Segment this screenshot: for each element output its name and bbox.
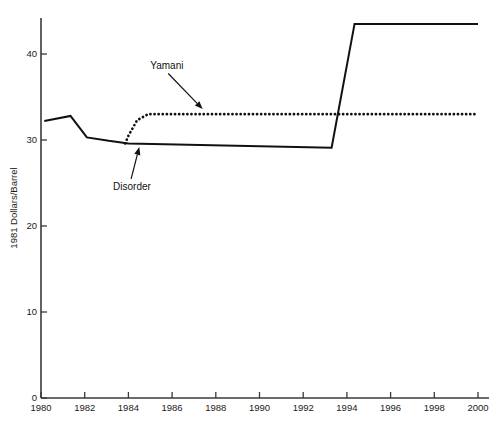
axes-group (41, 18, 489, 398)
y-tick-label: 20 (26, 220, 37, 231)
x-tick-label: 1980 (30, 402, 51, 413)
annotation-arrow-shaft-yamani (168, 73, 197, 103)
x-tick-label: 1988 (205, 402, 226, 413)
y-axis-title: 1981 Dollars/Barrel (8, 167, 19, 248)
annotation-arrow-shaft-disorder (131, 155, 137, 179)
annotation-label-yamani: Yamani (150, 60, 183, 71)
x-tick-label: 2000 (467, 402, 488, 413)
x-tick-label: 1996 (380, 402, 401, 413)
annotations-group: YamaniDisorder (113, 60, 203, 191)
data-series-group (44, 24, 478, 148)
series-line-disorder (44, 24, 478, 148)
y-tick-label: 10 (26, 306, 37, 317)
x-tick-label: 1994 (336, 402, 357, 413)
y-axis-ticks: 010203040 (26, 48, 47, 403)
x-tick-label: 1992 (293, 402, 314, 413)
chart-canvas: 010203040 198019821984198619881990199219… (0, 0, 493, 425)
oil-price-chart-figure: 010203040 198019821984198619881990199219… (0, 0, 493, 425)
series-line-yamani (125, 114, 478, 143)
y-tick-label: 40 (26, 48, 37, 59)
annotation-label-disorder: Disorder (113, 181, 151, 192)
x-axis-ticks: 1980198219841986198819901992199419961998… (30, 392, 488, 413)
x-tick-label: 1998 (424, 402, 445, 413)
annotation-arrow-head-disorder (134, 147, 140, 156)
x-tick-label: 1984 (118, 402, 139, 413)
x-tick-label: 1982 (74, 402, 95, 413)
x-tick-label: 1990 (249, 402, 270, 413)
x-tick-label: 1986 (162, 402, 183, 413)
y-tick-label: 30 (26, 134, 37, 145)
